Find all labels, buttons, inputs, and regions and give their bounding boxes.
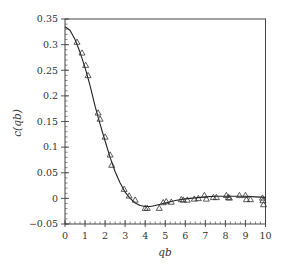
x-tick-label: 1: [82, 230, 88, 241]
x-axis-ticks: 012345678910: [62, 220, 272, 241]
plot-border: [65, 19, 266, 224]
x-tick-label: 7: [202, 230, 208, 241]
x-tick-label: 6: [182, 230, 188, 241]
x-tick-label: 5: [162, 230, 168, 241]
y-tick-label: −0.05: [29, 218, 58, 229]
y-axis-ticks: −0.0500.050.10.150.20.250.30.35: [29, 13, 69, 229]
x-axis-label: qb: [158, 246, 172, 258]
y-tick-label: 0.1: [43, 141, 58, 152]
triangle-marker: [109, 162, 115, 167]
x-tick-label: 4: [142, 230, 148, 241]
chart: −0.0500.050.10.150.20.250.30.35 01234567…: [0, 0, 284, 272]
plot-frame: [65, 19, 266, 224]
y-tick-label: 0.35: [37, 13, 58, 24]
theory-curve: [65, 27, 266, 207]
triangle-marker: [132, 197, 138, 202]
x-tick-label: 8: [222, 230, 228, 241]
y-axis-label: c(qb): [11, 109, 23, 137]
x-tick-label: 0: [62, 230, 68, 241]
y-tick-label: 0.15: [37, 116, 58, 127]
theory-line: [65, 27, 266, 207]
y-tick-label: 0.25: [37, 65, 58, 76]
y-tick-label: 0.3: [43, 39, 58, 50]
x-tick-label: 2: [102, 230, 108, 241]
x-tick-label: 10: [259, 230, 271, 241]
x-tick-label: 9: [242, 230, 248, 241]
y-tick-label: 0: [52, 193, 58, 204]
x-tick-label: 3: [122, 230, 128, 241]
y-tick-label: 0.2: [43, 90, 58, 101]
triangle-marker: [156, 205, 162, 210]
y-tick-label: 0.05: [37, 167, 58, 178]
data-markers: [74, 39, 266, 210]
